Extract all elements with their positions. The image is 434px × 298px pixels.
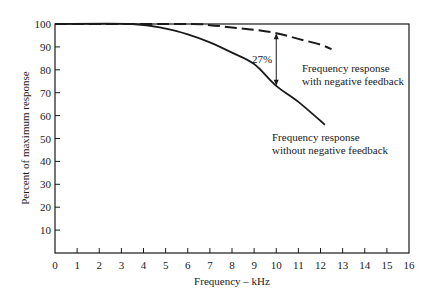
x-tick-label: 2	[97, 259, 103, 271]
y-axis-ticks: 102030405060708090100	[35, 18, 61, 236]
annotations: 27% Frequency response with negative fee…	[252, 33, 404, 156]
y-tick-label: 10	[40, 224, 52, 236]
x-tick-label: 13	[337, 259, 349, 271]
x-tick-label: 14	[359, 259, 371, 271]
y-tick-label: 30	[40, 178, 52, 190]
x-tick-label: 15	[381, 259, 393, 271]
x-tick-label: 5	[163, 259, 169, 271]
x-tick-label: 8	[229, 259, 235, 271]
x-tick-label: 1	[74, 259, 80, 271]
x-axis-label: Frequency – kHz	[194, 275, 270, 287]
y-tick-label: 90	[40, 41, 52, 53]
x-tick-label: 4	[141, 259, 147, 271]
with-feedback-label-line2: with negative feedback	[302, 75, 405, 87]
y-axis-label: Percent of maximum response	[19, 71, 31, 205]
y-tick-label: 60	[40, 110, 52, 122]
without-feedback-label-line1: Frequency response	[272, 131, 360, 143]
x-tick-label: 7	[207, 259, 213, 271]
x-tick-label: 16	[404, 259, 416, 271]
without-feedback-curve	[55, 24, 325, 125]
x-tick-label: 0	[52, 259, 58, 271]
x-tick-label: 12	[315, 259, 326, 271]
y-tick-label: 80	[40, 64, 52, 76]
x-tick-label: 10	[271, 259, 283, 271]
x-tick-label: 3	[119, 259, 125, 271]
x-tick-label: 6	[185, 259, 191, 271]
y-tick-label: 50	[40, 133, 52, 145]
frequency-response-chart: 012345678910111213141516 102030405060708…	[0, 0, 434, 298]
x-tick-label: 9	[251, 259, 257, 271]
with-feedback-label-line1: Frequency response	[302, 62, 390, 74]
y-tick-label: 40	[40, 155, 52, 167]
gap-label: 27%	[252, 53, 272, 65]
y-tick-label: 100	[35, 18, 52, 30]
y-tick-label: 70	[40, 87, 52, 99]
x-tick-label: 11	[293, 259, 304, 271]
x-axis-ticks: 012345678910111213141516	[52, 248, 415, 271]
series-lines	[55, 24, 332, 125]
y-tick-label: 20	[40, 201, 52, 213]
without-feedback-label-line2: without negative feedback	[272, 144, 389, 156]
